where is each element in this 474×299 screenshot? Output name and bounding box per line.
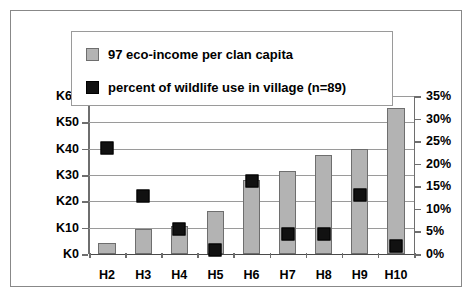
right-axis-tick-label: 15% <box>426 179 451 193</box>
data-marker <box>281 228 294 241</box>
left-axis-tick <box>82 122 88 124</box>
left-axis-tick-label: K10 <box>56 221 79 235</box>
category-label: H5 <box>207 268 223 282</box>
right-axis-tick <box>415 254 421 256</box>
right-axis-tick <box>415 209 421 211</box>
category-tick <box>342 253 344 258</box>
data-marker <box>101 141 114 154</box>
plot-area: K0K10K20K30K40K50K60 0%5%10%15%20%25%30%… <box>89 96 414 254</box>
category-tick <box>233 253 235 258</box>
category-label: H10 <box>384 268 407 282</box>
category-label: H7 <box>280 268 296 282</box>
right-axis-tick <box>415 231 421 233</box>
category-label: H8 <box>316 268 332 282</box>
left-axis-tick-label: K0 <box>63 247 79 261</box>
chart-frame: K0K10K20K30K40K50K60 0%5%10%15%20%25%30%… <box>10 10 462 287</box>
category-label: H4 <box>171 268 187 282</box>
right-axis-tick-label: 30% <box>426 112 451 126</box>
category-tick <box>378 253 380 258</box>
category-label: H6 <box>244 268 260 282</box>
legend-label-eco-income: 97 eco-income per clan capita <box>108 47 293 62</box>
data-marker <box>245 174 258 187</box>
data-marker <box>353 189 366 202</box>
left-axis-tick-label: K40 <box>56 142 79 156</box>
left-axis-tick <box>82 228 88 230</box>
right-axis-tick <box>415 141 421 143</box>
legend-swatch-marker-icon <box>86 81 99 94</box>
right-axis-tick-label: 10% <box>426 202 451 216</box>
category-label: H3 <box>135 268 151 282</box>
category-tick <box>414 253 416 258</box>
left-axis-tick <box>82 254 88 256</box>
right-axis-tick <box>415 186 421 188</box>
category-tick <box>306 253 308 258</box>
bar <box>135 229 152 254</box>
right-axis-tick-label: 0% <box>426 247 444 261</box>
left-axis-tick-label: K50 <box>56 115 79 129</box>
right-axis-tick-label: 20% <box>426 157 451 171</box>
right-axis-tick-label: 5% <box>426 224 444 238</box>
left-axis-tick <box>82 149 88 151</box>
data-marker <box>317 228 330 241</box>
gridline <box>89 122 414 123</box>
left-axis-tick <box>82 175 88 177</box>
right-axis-tick <box>415 96 421 98</box>
legend-label-wildlife-use: percent of wildlife use in village (n=89… <box>108 80 346 95</box>
right-axis-tick <box>415 119 421 121</box>
category-label: H2 <box>99 268 115 282</box>
legend-item-wildlife-use: percent of wildlife use in village (n=89… <box>86 80 346 95</box>
right-axis-tick-label: 35% <box>426 89 451 103</box>
data-marker <box>173 223 186 236</box>
chart-legend: 97 eco-income per clan capita percent of… <box>71 31 393 106</box>
left-axis-tick-label: K20 <box>56 194 79 208</box>
legend-item-eco-income: 97 eco-income per clan capita <box>86 47 293 62</box>
category-tick <box>270 253 272 258</box>
bar <box>243 180 260 254</box>
category-tick <box>125 253 127 258</box>
right-axis-tick-label: 25% <box>426 134 451 148</box>
category-tick <box>197 253 199 258</box>
bar <box>98 243 115 254</box>
right-axis-tick <box>415 164 421 166</box>
category-tick <box>89 253 91 258</box>
left-axis-tick-label: K30 <box>56 168 79 182</box>
data-marker <box>389 239 402 252</box>
data-marker <box>209 244 222 257</box>
category-tick <box>161 253 163 258</box>
left-axis-tick <box>82 201 88 203</box>
data-marker <box>137 190 150 203</box>
bar <box>387 108 404 254</box>
legend-swatch-bar-icon <box>86 48 99 61</box>
bar <box>279 171 296 254</box>
category-label: H9 <box>352 268 368 282</box>
